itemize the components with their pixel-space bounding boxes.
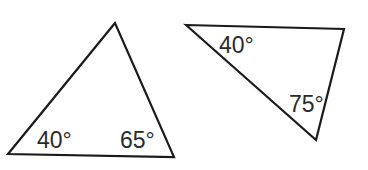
right-triangle: 40° 75° <box>186 25 344 140</box>
right-triangle-angle-bottom: 75° <box>289 91 324 117</box>
triangles-figure: 40° 65° 40° 75° <box>0 0 368 170</box>
right-triangle-angle-top-left: 40° <box>219 32 254 58</box>
left-triangle-angle-bottom-left: 40° <box>37 127 72 153</box>
right-triangle-outline <box>186 25 344 140</box>
left-triangle-angle-bottom-right: 65° <box>120 127 155 153</box>
left-triangle: 40° 65° <box>8 23 174 157</box>
